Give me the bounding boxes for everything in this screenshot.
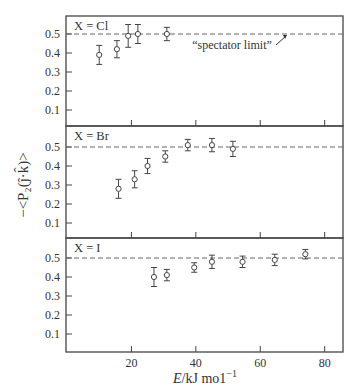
data-point [230, 141, 236, 156]
x-tick-label: 60 [254, 356, 266, 370]
data-point [185, 139, 191, 150]
data-point [151, 268, 157, 287]
x-tick-label: 40 [190, 356, 202, 370]
figure: 0.10.20.30.40.5X = Cl“spectator limit”0.… [0, 0, 358, 389]
y-tick-label: 0.1 [45, 103, 60, 117]
panel-frame [66, 238, 343, 352]
data-point [132, 171, 138, 188]
y-tick-label: 0.5 [45, 140, 60, 154]
panel-label: X = Cl [74, 19, 109, 33]
panel-label: X = Br [74, 129, 110, 143]
x-tick-label: 20 [125, 356, 137, 370]
data-point [164, 27, 170, 40]
y-axis-label: −<P₂(ĵ·k̂)> [14, 152, 32, 218]
y-tick-label: 0.4 [45, 270, 60, 284]
data-point [114, 41, 120, 58]
y-tick-label: 0.3 [45, 289, 60, 303]
panel-2: 0.10.20.30.40.5X = Br [45, 126, 343, 238]
data-point [191, 263, 197, 273]
spectator-limit-annotation: “spectator limit” [192, 38, 272, 52]
data-point [116, 179, 122, 198]
data-point [162, 151, 168, 162]
data-point [209, 255, 215, 268]
y-tick-label: 0.3 [45, 65, 60, 79]
y-tick-label: 0.3 [45, 178, 60, 192]
y-tick-label: 0.2 [45, 84, 60, 98]
y-tick-label: 0.2 [45, 197, 60, 211]
data-point [272, 254, 278, 265]
y-tick-label: 0.5 [45, 251, 60, 265]
data-point [125, 25, 131, 48]
x-axis-label: E/kJ mo1−1 [172, 368, 237, 386]
panel-1: 0.10.20.30.40.5X = Cl“spectator limit” [45, 16, 343, 126]
panel-3: 0.10.20.30.40.5X = I [45, 238, 343, 352]
panel-label: X = I [74, 241, 101, 255]
data-point [209, 138, 215, 151]
y-tick-label: 0.1 [45, 216, 60, 230]
x-tick-label: 80 [319, 356, 331, 370]
data-point [164, 269, 170, 280]
y-tick-label: 0.4 [45, 159, 60, 173]
data-point [135, 25, 141, 44]
y-tick-label: 0.1 [45, 327, 60, 341]
data-point [96, 45, 102, 64]
data-point [145, 158, 151, 173]
y-tick-label: 0.2 [45, 308, 60, 322]
y-tick-label: 0.4 [45, 46, 60, 60]
y-tick-label: 0.5 [45, 27, 60, 41]
